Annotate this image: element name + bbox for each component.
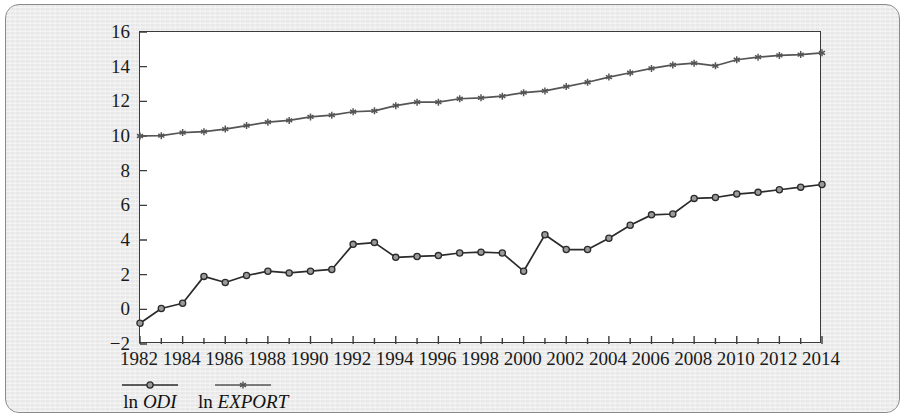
legend-label-prefix: ln [123, 391, 138, 412]
x-axis-tick-label: 1990 [291, 349, 329, 368]
y-axis-tick-label: 2 [88, 264, 130, 283]
x-axis-tick-label: 1986 [205, 349, 243, 368]
data-point-marker [307, 268, 313, 274]
y-axis-tick-labels: −20246810121416 [78, 31, 130, 343]
y-axis-tick-label: 16 [88, 22, 130, 41]
data-point-marker [414, 253, 420, 259]
data-point-marker [819, 181, 825, 187]
x-axis-tick-label: 2010 [717, 349, 755, 368]
data-point-marker [350, 241, 356, 247]
legend-label-prefix: ln [198, 391, 213, 412]
legend-entry-export: ln EXPORT [198, 379, 288, 412]
x-axis-tick-label: 1992 [333, 349, 371, 368]
series-odi [137, 181, 825, 326]
chart-canvas [140, 32, 822, 344]
legend-label-variable: ODI [143, 391, 177, 412]
x-axis-tick-label: 1982 [120, 349, 158, 368]
legend-marker-asterisk-icon [211, 379, 275, 391]
y-axis-tick-label: 0 [88, 299, 130, 318]
legend-label: ln EXPORT [198, 392, 288, 412]
data-point-marker [712, 194, 718, 200]
data-point-marker [798, 184, 804, 190]
legend-label: ln ODI [123, 392, 176, 412]
data-point-marker [243, 272, 249, 278]
data-point-marker [222, 279, 228, 285]
y-axis-tick-label: 12 [88, 91, 130, 110]
data-point-marker [137, 320, 143, 326]
data-point-marker [584, 246, 590, 252]
data-point-marker [670, 211, 676, 217]
data-point-marker [435, 253, 441, 259]
data-point-marker [201, 273, 207, 279]
x-axis-tick-label: 1988 [248, 349, 286, 368]
y-axis-tick-label: 6 [88, 195, 130, 214]
data-point-marker [627, 222, 633, 228]
legend-marker-circle-icon [118, 379, 182, 391]
series-export [137, 49, 825, 139]
x-axis-tick-label: 2006 [632, 349, 670, 368]
data-point-marker [180, 300, 186, 306]
x-axis-tick-labels: 1982198419861988199019921994199619982000… [139, 349, 821, 373]
x-axis-tick-label: 1998 [461, 349, 499, 368]
chart-legend: ln ODIln EXPORT [118, 379, 288, 412]
y-axis-tick-label: 14 [88, 56, 130, 75]
x-axis-tick-label: 2002 [546, 349, 584, 368]
data-point-marker [371, 240, 377, 246]
figure-panel: −20246810121416 198219841986198819901992… [5, 4, 900, 413]
x-axis-tick-label: 1984 [163, 349, 201, 368]
data-point-marker [158, 305, 164, 311]
data-point-marker [499, 250, 505, 256]
data-point-marker [755, 189, 761, 195]
data-point-marker [393, 254, 399, 260]
x-axis-tick-label: 1994 [376, 349, 414, 368]
data-point-marker [734, 191, 740, 197]
plot-area [139, 31, 821, 343]
data-point-marker [457, 250, 463, 256]
data-point-marker [478, 249, 484, 255]
data-point-marker [648, 212, 654, 218]
data-point-marker [691, 195, 697, 201]
y-axis-tick-label: 4 [88, 230, 130, 249]
data-point-marker [606, 235, 612, 241]
x-axis-tick-label: 2004 [589, 349, 627, 368]
x-axis-tick-label: 2014 [802, 349, 840, 368]
data-point-marker [329, 266, 335, 272]
x-axis-tick-label: 2000 [504, 349, 542, 368]
data-point-marker [542, 232, 548, 238]
legend-entry-odi: ln ODI [118, 379, 182, 412]
data-point-marker [147, 382, 153, 388]
x-axis-tick-label: 2008 [674, 349, 712, 368]
y-axis-tick-label: 10 [88, 126, 130, 145]
x-axis-tick-label: 1996 [418, 349, 456, 368]
data-point-marker [286, 270, 292, 276]
legend-label-variable: EXPORT [218, 391, 289, 412]
data-point-marker [563, 246, 569, 252]
data-point-marker [776, 187, 782, 193]
data-point-marker [265, 268, 271, 274]
x-axis-tick-label: 2012 [759, 349, 797, 368]
y-axis-tick-label: 8 [88, 160, 130, 179]
data-point-marker [521, 268, 527, 274]
